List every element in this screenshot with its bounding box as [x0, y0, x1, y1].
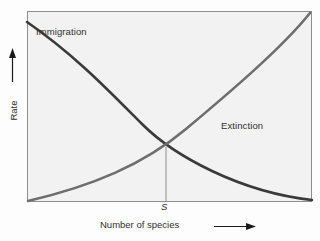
curve-immigration: [27, 22, 312, 200]
series-label-immigration: Immigration: [36, 26, 87, 37]
chart-figure: Immigration Extinction S Rate Number of …: [0, 0, 320, 241]
series-label-extinction: Extinction: [221, 120, 263, 131]
curve-extinction: [28, 13, 310, 201]
equilibrium-label: S: [161, 201, 167, 212]
x-axis-label-group: Number of species: [100, 219, 270, 237]
y-axis-label: Rate: [8, 88, 19, 134]
y-axis-label-group: Rate: [0, 45, 26, 170]
x-axis-label: Number of species: [100, 219, 179, 230]
